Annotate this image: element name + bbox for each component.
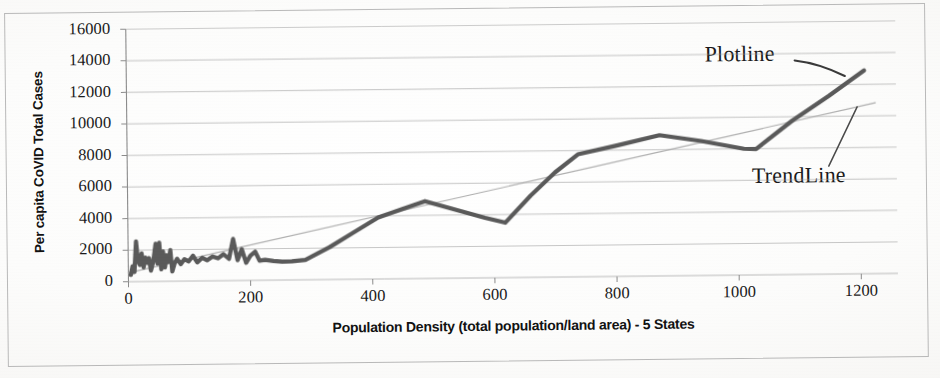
trendline-series (127, 103, 877, 273)
trendline-leader-line (828, 107, 858, 166)
y-gridlines (126, 21, 898, 282)
plotline-series (129, 70, 866, 274)
chart-figure: 16000 14000 12000 10000 8000 6000 4000 2… (0, 0, 940, 378)
chart-plot-svg (0, 0, 940, 378)
plotline-leader-line (795, 60, 845, 77)
